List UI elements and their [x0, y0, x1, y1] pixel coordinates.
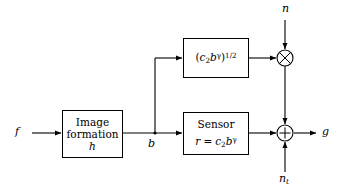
- signal-label-input-f: f: [15, 126, 19, 138]
- block-image-formation-line2: formation: [66, 128, 118, 140]
- signal-label-branch-b: b: [148, 138, 155, 150]
- block-diagram-canvas: Image formation h (c2bγ)1/2 Sensor r=c2b…: [0, 0, 350, 195]
- signal-label-noise-n: n: [282, 3, 289, 15]
- sensor-exponent-gamma: γ: [232, 135, 236, 144]
- noise-nt-subscript: t: [286, 177, 289, 186]
- block-sqrt-gain-expression: (c2bγ)1/2: [195, 51, 236, 65]
- block-image-formation-transfer-function: h: [89, 140, 96, 152]
- block-sensor[interactable]: Sensor r=c2bγ: [183, 112, 249, 155]
- signal-label-noise-nt: nt: [279, 173, 289, 186]
- branch-junction-dot: [153, 131, 156, 134]
- block-sensor-title: Sensor: [198, 118, 235, 130]
- block-image-formation[interactable]: Image formation h: [62, 110, 123, 158]
- variable-b: b: [210, 51, 217, 63]
- signal-label-output-g: g: [322, 126, 329, 138]
- block-sqrt-gain[interactable]: (c2bγ)1/2: [183, 38, 249, 78]
- outer-exponent-one-half: 1/2: [225, 51, 236, 60]
- equals-sign: =: [203, 135, 212, 147]
- sensor-response-r: r: [195, 135, 200, 147]
- diagram-wires-layer: [0, 0, 350, 195]
- block-sensor-equation: r=c2bγ: [195, 135, 236, 149]
- block-image-formation-line1: Image: [76, 116, 109, 128]
